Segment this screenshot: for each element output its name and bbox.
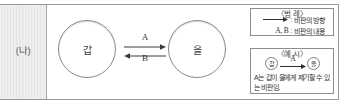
actor-circle-right-label: 을 [169, 21, 225, 77]
arrow-backward-label: B [124, 53, 166, 63]
legend-box: 〈범 례〉 : 비판의 방향 A, B : 비판의 내용 [250, 8, 334, 36]
arrow-forward-label: A [124, 32, 166, 42]
legend-key-letters: A, B [259, 26, 288, 35]
legend-row: A, B : 비판의 내용 [251, 25, 333, 36]
legend-separator: : [290, 16, 292, 23]
panel-label-container: (나) [0, 5, 47, 99]
panel-label: (나) [0, 43, 46, 57]
legend-separator: : [290, 27, 292, 34]
example-caption: A는 갑이 을에게 제기할 수 있는 비판임. [254, 73, 332, 92]
example-arrow-group: A [280, 55, 306, 72]
example-actor-circle-right-label: 을 [311, 59, 317, 68]
example-box: 〈예 시〉 갑 A 을 A는 갑이 을에게 제기할 수 있는 비판임. [250, 48, 334, 94]
example-actor-circle-left-label: 갑 [269, 59, 275, 68]
legend-key-label: A, B [275, 26, 288, 35]
legend-row: : 비판의 방향 [251, 14, 333, 25]
example-arrow-label: A [280, 54, 306, 63]
legend-description: 비판의 방향 [294, 15, 324, 25]
actor-circle-left-label: 갑 [59, 21, 115, 77]
example-actor-circle-right: 을 [307, 57, 320, 70]
legend-rows: : 비판의 방향 A, B : 비판의 내용 [251, 14, 333, 36]
actor-circle-right: 을 [168, 20, 226, 78]
actor-circle-left: 갑 [58, 20, 116, 78]
figure-screenshot: (나) 갑 을 A B 〈범 례〉 [0, 0, 341, 106]
arrow-right-icon [263, 16, 288, 23]
example-mini-diagram: 갑 A 을 [251, 55, 333, 72]
example-actor-circle-left: 갑 [265, 57, 278, 70]
legend-key-arrow [259, 16, 288, 23]
arrow-right-icon [280, 63, 306, 70]
legend-description: 비판의 내용 [294, 26, 324, 36]
criticism-arrow-group: A B [124, 33, 166, 67]
